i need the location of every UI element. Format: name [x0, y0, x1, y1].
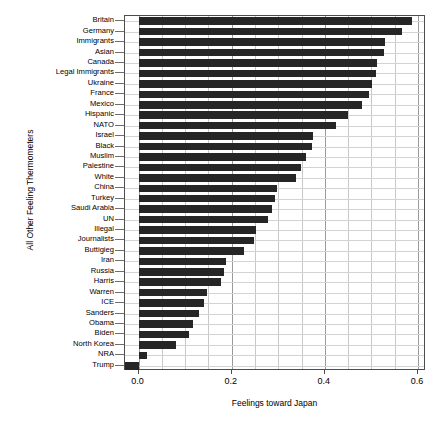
- bar: [139, 111, 349, 119]
- bar-row: [125, 352, 424, 360]
- bar-row: [125, 195, 424, 203]
- y-axis-tick-label: Warren: [89, 288, 114, 296]
- bar: [125, 362, 138, 370]
- bar-row: [125, 91, 424, 99]
- bar: [139, 258, 226, 266]
- bar: [139, 164, 301, 172]
- bar-row: [125, 310, 424, 318]
- y-axis-tick-label: Journalists: [78, 235, 114, 243]
- y-axis-tick-label: Russia: [91, 267, 114, 275]
- bar-row: [125, 28, 424, 36]
- bar: [139, 352, 148, 360]
- y-axis-tick-mark: [115, 52, 124, 53]
- bar-row: [125, 111, 424, 119]
- bar: [139, 153, 306, 161]
- y-axis-tick-label: NRA: [98, 350, 114, 358]
- y-axis-tick-label: Palestine: [83, 162, 114, 170]
- bar: [139, 49, 384, 57]
- y-axis-tick-label: Turkey: [91, 194, 114, 202]
- bar-row: [125, 299, 424, 307]
- x-axis-tick-label: 0.2: [224, 376, 237, 386]
- bar-row: [125, 132, 424, 140]
- bar-row: [125, 226, 424, 234]
- bar: [139, 331, 190, 339]
- y-axis-tick-mark: [115, 31, 124, 32]
- y-axis-tick-mark: [115, 20, 124, 21]
- y-axis-tick-label: NATO: [94, 121, 114, 129]
- x-axis-tick-mark: [231, 370, 232, 374]
- bar: [139, 299, 205, 307]
- y-axis-tick-label: Harris: [94, 277, 114, 285]
- y-axis-tick-label: Britain: [92, 16, 114, 24]
- y-axis-tick-label: Muslim: [90, 152, 114, 160]
- y-axis-tick-mark: [115, 344, 124, 345]
- bar-row: [125, 17, 424, 25]
- y-axis-tick-mark: [115, 365, 124, 366]
- y-axis-tick-mark: [115, 271, 124, 272]
- bar: [139, 174, 296, 182]
- y-axis-tick-mark: [115, 72, 124, 73]
- y-axis-tick-mark: [115, 62, 124, 63]
- bar-row: [125, 101, 424, 109]
- y-axis-tick-mark: [115, 93, 124, 94]
- y-axis-tick-labels: BritainGermanyImmigrantsAsianCanadaLegal…: [0, 15, 124, 370]
- y-axis-tick-label: Black: [95, 142, 114, 150]
- y-axis-tick-label: Sanders: [86, 309, 114, 317]
- y-axis-tick-mark: [115, 229, 124, 230]
- y-axis-tick-mark: [115, 260, 124, 261]
- y-axis-tick-mark: [115, 135, 124, 136]
- bar-row: [125, 38, 424, 46]
- y-axis-tick-label: Legal Immigrants: [56, 68, 114, 76]
- bar: [139, 237, 255, 245]
- y-axis-tick-mark: [115, 177, 124, 178]
- y-axis-tick-mark: [115, 166, 124, 167]
- bars-layer: [125, 16, 424, 369]
- y-axis-tick-mark: [115, 323, 124, 324]
- y-axis-tick-mark: [115, 239, 124, 240]
- bar-row: [125, 205, 424, 213]
- y-axis-tick-label: Saudi Arabia: [71, 204, 114, 212]
- y-axis-tick-label: Israel: [95, 131, 114, 139]
- y-axis-tick-mark: [115, 156, 124, 157]
- x-axis-title: Feelings toward Japan: [124, 398, 425, 408]
- bar: [139, 226, 256, 234]
- y-axis-tick-mark: [115, 114, 124, 115]
- y-axis-tick-mark: [115, 333, 124, 334]
- bar: [139, 268, 225, 276]
- bar-row: [125, 59, 424, 67]
- bar-row: [125, 153, 424, 161]
- bar: [139, 91, 370, 99]
- bar: [139, 289, 208, 297]
- bar-row: [125, 49, 424, 57]
- y-axis-tick-mark: [115, 250, 124, 251]
- bar: [139, 320, 193, 328]
- y-axis-tick-label: Ukraine: [88, 79, 114, 87]
- y-axis-tick-label: Mexico: [90, 100, 114, 108]
- y-axis-tick-label: China: [94, 183, 114, 191]
- bar: [139, 101, 363, 109]
- y-axis-tick-mark: [115, 281, 124, 282]
- bar: [139, 80, 373, 88]
- x-axis-tick-mark: [324, 370, 325, 374]
- bar: [139, 143, 312, 151]
- bar-row: [125, 143, 424, 151]
- bar: [139, 278, 221, 286]
- bar-row: [125, 247, 424, 255]
- y-axis-tick-mark: [115, 146, 124, 147]
- bar-row: [125, 237, 424, 245]
- x-axis-ticks: 0.00.20.40.6: [124, 370, 425, 396]
- x-axis-tick-mark: [417, 370, 418, 374]
- bar-row: [125, 122, 424, 130]
- y-axis-tick-label: Buttigieg: [84, 246, 114, 254]
- bar-row: [125, 258, 424, 266]
- bar-row: [125, 320, 424, 328]
- y-axis-tick-label: Canada: [87, 58, 114, 66]
- bar-row: [125, 362, 424, 370]
- y-axis-tick-mark: [115, 208, 124, 209]
- y-axis-tick-label: Trump: [92, 361, 114, 369]
- y-axis-tick-label: Iran: [101, 256, 114, 264]
- bar-row: [125, 80, 424, 88]
- y-axis-tick-label: Obama: [89, 319, 114, 327]
- bar-row: [125, 278, 424, 286]
- x-axis-tick-label: 0.4: [318, 376, 331, 386]
